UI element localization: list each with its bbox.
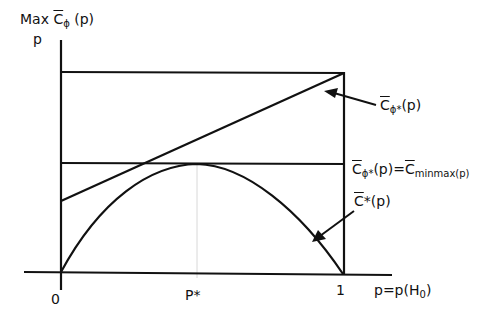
x-label-end: ) [426,282,431,298]
bayes-label-symbol: C [354,193,364,209]
max-horizontal-line [61,72,345,73]
minmax-label-symbol: C [352,161,362,177]
x-label-main: p=p(H [374,282,420,298]
y-label-suffix: (p) [70,11,94,27]
linear-label-suffix: (p) [401,97,421,113]
bayes-label-suffix: *(p) [364,193,391,209]
x-tick-0: 0 [51,292,60,306]
linear-risk-line [61,73,344,201]
linear-label-symbol: C [380,97,390,113]
minmax-label: Cϕ*(p)=Cminmax(p) [352,162,470,179]
x-tick-1: 1 [336,283,345,297]
bayes-risk-curve [61,164,343,274]
y-label-sub: ϕ [63,18,70,29]
x-tick-pstar: P* [185,288,200,302]
minmax-label-sub: ϕ* [362,168,374,179]
linear-label-arrow [334,93,376,105]
bayes-label-arrow [320,211,354,236]
arrowhead-icon [324,88,338,98]
linear-label-sub: ϕ* [390,104,402,115]
y-label-prefix: Max [20,11,53,27]
y-label-symbol: C [53,11,63,27]
minmax-label-symbol2: C [405,161,415,177]
y-axis-label: Max Cϕ (p) [20,12,94,29]
minmax-label-mid: (p)= [373,161,405,177]
x-axis-label: p=p(H0) [374,283,431,300]
bayes-risk-label: C*(p) [354,194,391,208]
minmax-label-sub2: minmax(p) [415,168,470,179]
linear-risk-label: Cϕ*(p) [380,98,421,115]
y-axis-label-line2: p [33,32,42,46]
x-axis [24,272,392,275]
